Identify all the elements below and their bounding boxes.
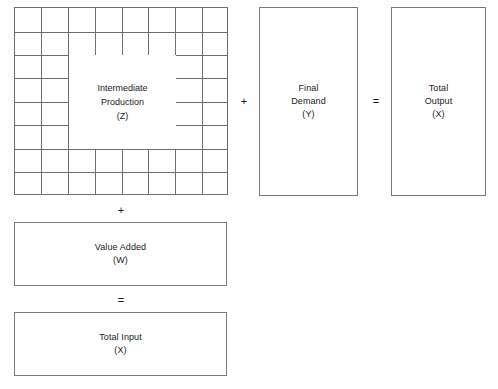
equals-operator-row: = (370, 96, 382, 107)
grid-hline-1 (15, 32, 227, 33)
grid-vline-1 (41, 8, 42, 194)
plus-operator-column: + (115, 205, 127, 216)
total-input-label-line-1: Total Input (99, 331, 142, 344)
final-demand-label-line-3: (Y) (302, 108, 314, 121)
total-output-box: Total Output (X) (391, 7, 486, 196)
equals-operator-column: = (115, 295, 127, 306)
final-demand-label-line-2: Demand (291, 95, 326, 108)
total-input-label-line-2: (X) (114, 344, 126, 357)
io-table-diagram: Intermediate Production (Z) + Final Dema… (0, 0, 498, 389)
plus-operator-row: + (238, 96, 250, 107)
matrix-label-line-3: (Z) (117, 109, 129, 123)
final-demand-box: Final Demand (Y) (259, 7, 358, 196)
total-output-label-line-3: (X) (432, 108, 444, 121)
total-input-box: Total Input (X) (14, 312, 227, 376)
total-output-label-line-1: Total (429, 82, 449, 95)
grid-hline-7 (15, 172, 227, 173)
value-added-label-line-2: (W) (113, 254, 128, 267)
matrix-label-line-1: Intermediate (97, 81, 147, 95)
final-demand-label-line-1: Final (298, 82, 318, 95)
total-output-label-line-2: Output (425, 95, 453, 108)
matrix-label-line-2: Production (101, 95, 144, 109)
intermediate-production-label: Intermediate Production (Z) (69, 55, 176, 149)
value-added-box: Value Added (W) (14, 222, 227, 286)
grid-vline-7 (202, 8, 203, 194)
intermediate-production-matrix: Intermediate Production (Z) (14, 7, 228, 195)
grid-hline-6 (15, 149, 227, 150)
value-added-label-line-1: Value Added (95, 241, 146, 254)
